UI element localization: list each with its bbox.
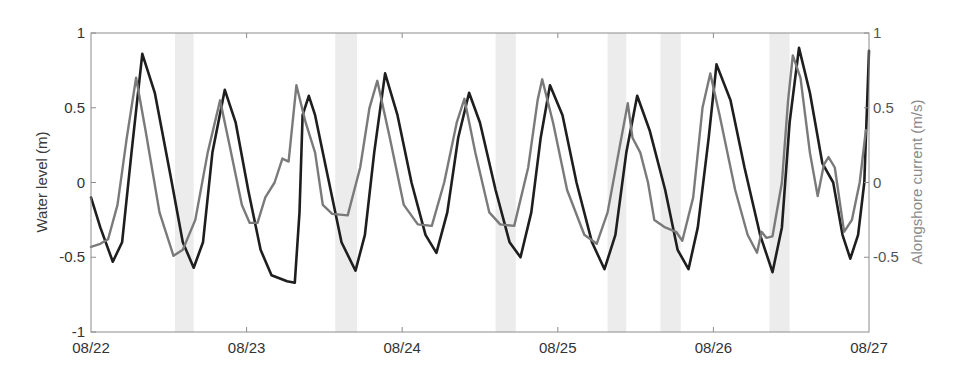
shaded-band <box>175 33 194 332</box>
plot-frame <box>91 33 869 332</box>
y-tick-label-right: -0.5 <box>873 248 899 265</box>
alongshore-current-line <box>91 55 866 255</box>
y-tick-label-right: 0 <box>873 174 881 191</box>
y-axis-left: 10.50-0.5-1 <box>59 24 96 340</box>
data-series <box>91 48 869 283</box>
y-tick-label: 0 <box>77 174 85 191</box>
shaded-band <box>496 33 516 332</box>
x-tick-label: 08/23 <box>228 339 266 356</box>
x-tick-label: 08/24 <box>383 339 421 356</box>
x-axis: 08/2208/2308/2408/2508/2608/27 <box>72 33 888 356</box>
y-tick-label: -0.5 <box>59 248 85 265</box>
x-tick-label: 08/26 <box>695 339 733 356</box>
shaded-band <box>769 33 789 332</box>
x-tick-label: 08/27 <box>850 339 888 356</box>
shaded-band <box>335 33 357 332</box>
y-axis-title-left: Water level (m) <box>33 131 50 232</box>
y-tick-label-right: 0.5 <box>873 99 894 116</box>
x-tick-label: 08/22 <box>72 339 110 356</box>
y-axis-title-right: Alongshore current (m/s) <box>908 99 925 264</box>
y-tick-label: 0.5 <box>64 99 85 116</box>
water-level-line <box>91 48 869 283</box>
y-tick-label: -1 <box>72 323 85 340</box>
y-tick-label-right: 1 <box>873 24 881 41</box>
x-tick-label: 08/25 <box>539 339 577 356</box>
chart: 08/2208/2308/2408/2508/2608/27 10.50-0.5… <box>0 0 956 375</box>
y-tick-label: 1 <box>77 24 85 41</box>
